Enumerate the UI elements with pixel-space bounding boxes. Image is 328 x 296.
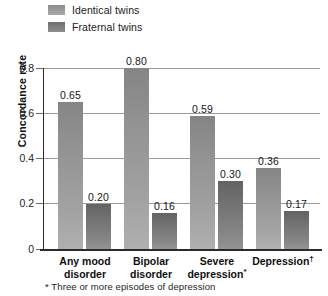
bar-fraternal-any-mood-disorder bbox=[86, 204, 111, 249]
legend-item-fraternal-twins: Fraternal twins bbox=[48, 19, 248, 34]
bar-value-fraternal-bipolar-disorder: 0.16 bbox=[146, 200, 183, 212]
bar-fraternal-severe-depression bbox=[218, 181, 243, 249]
y-tick-label-0.8: 0.8 bbox=[4, 62, 34, 74]
gridline-0.8 bbox=[44, 68, 320, 69]
bar-identical-bipolar-disorder bbox=[124, 68, 149, 249]
legend-swatch-fraternal-twins bbox=[48, 22, 65, 32]
y-axis-tick-labels: 0.8 0.6 0.4 0.2 0 bbox=[0, 0, 34, 296]
y-tick-label-0.2: 0.2 bbox=[4, 197, 34, 209]
legend-swatch-identical-twins bbox=[48, 5, 65, 15]
plot-area: 0.65 0.20 0.80 0.16 0.59 0.30 0.36 0.17 bbox=[44, 68, 320, 249]
bar-value-fraternal-severe-depression: 0.30 bbox=[212, 168, 249, 180]
x-label-depression-line1: Depression bbox=[252, 255, 309, 267]
chart-legend: Identical twins Fraternal twins bbox=[48, 2, 248, 36]
legend-label-identical-twins: Identical twins bbox=[72, 4, 139, 16]
concordance-rate-bar-chart: Identical twins Fraternal twins Concorda… bbox=[0, 0, 328, 296]
y-axis-line bbox=[43, 68, 44, 250]
x-axis-line bbox=[40, 249, 322, 251]
bar-identical-any-mood-disorder bbox=[58, 102, 83, 249]
bar-value-identical-any-mood-disorder: 0.65 bbox=[52, 89, 89, 101]
x-label-depression: Depression† bbox=[238, 255, 328, 268]
x-label-bipolar-disorder-line2: disorder bbox=[130, 268, 172, 280]
legend-item-identical-twins: Identical twins bbox=[48, 2, 248, 17]
bar-identical-severe-depression bbox=[190, 116, 215, 250]
bar-value-identical-depression: 0.36 bbox=[250, 155, 287, 167]
x-label-bipolar-disorder-line1: Bipolar bbox=[133, 255, 169, 267]
chart-footnote: * Three or more episodes of depression bbox=[45, 281, 216, 292]
x-label-severe-depression-line1: Severe bbox=[200, 255, 234, 267]
bar-value-fraternal-any-mood-disorder: 0.20 bbox=[80, 191, 117, 203]
x-label-severe-depression-line2: depression bbox=[187, 268, 243, 280]
y-tick-label-0.6: 0.6 bbox=[4, 107, 34, 119]
x-label-any-mood-disorder-line1: Any mood bbox=[59, 255, 110, 267]
x-label-depression-dagger: † bbox=[309, 254, 313, 263]
bar-fraternal-bipolar-disorder bbox=[152, 213, 177, 249]
bar-value-identical-severe-depression: 0.59 bbox=[184, 103, 221, 115]
x-label-any-mood-disorder-line2: disorder bbox=[64, 268, 106, 280]
gridline-0.6 bbox=[44, 113, 320, 114]
legend-label-fraternal-twins: Fraternal twins bbox=[72, 21, 142, 33]
bar-value-fraternal-depression: 0.17 bbox=[278, 198, 315, 210]
y-tick-label-0: 0 bbox=[4, 243, 34, 255]
bar-fraternal-depression bbox=[284, 211, 309, 250]
bar-value-identical-bipolar-disorder: 0.80 bbox=[118, 55, 155, 67]
y-tick-label-0.4: 0.4 bbox=[4, 152, 34, 164]
